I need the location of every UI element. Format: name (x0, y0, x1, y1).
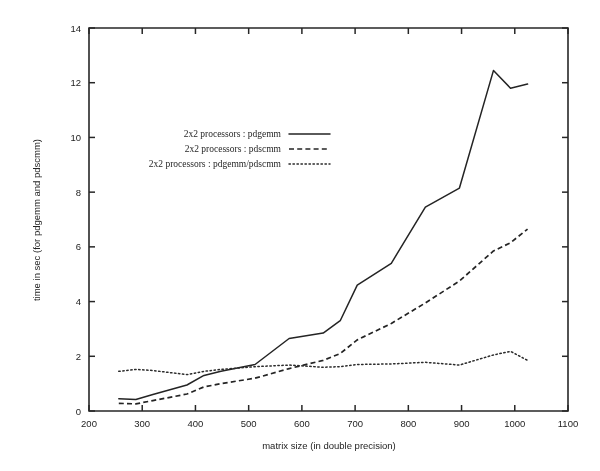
x-tick-label: 1100 (558, 418, 578, 429)
series-pdgemm-line (119, 70, 528, 399)
x-tick-label: 600 (294, 418, 310, 429)
series-pdscmm-line (119, 229, 528, 404)
line-chart: 20030040050060070080090010001100 0246810… (0, 0, 600, 471)
x-axis-ticks (89, 28, 568, 411)
chart-figure: 20030040050060070080090010001100 0246810… (0, 0, 600, 471)
plot-frame (89, 28, 568, 411)
series-group (119, 70, 528, 403)
legend-label-1: 2x2 processors : pdscmm (185, 144, 282, 154)
x-axis-tick-labels: 20030040050060070080090010001100 (81, 418, 578, 429)
y-axis-ticks (89, 28, 568, 411)
y-tick-label: 0 (76, 406, 81, 417)
y-axis-title: time in sec (for pdgemm and pdscmm) (31, 139, 42, 301)
legend-label-0: 2x2 processors : pdgemm (184, 129, 282, 139)
y-tick-label: 10 (70, 132, 81, 143)
y-tick-label: 4 (76, 296, 81, 307)
x-tick-label: 300 (134, 418, 150, 429)
x-tick-label: 800 (400, 418, 416, 429)
y-tick-label: 14 (70, 23, 81, 34)
y-tick-label: 6 (76, 241, 81, 252)
x-tick-label: 900 (454, 418, 470, 429)
y-axis-tick-labels: 02468101214 (70, 23, 81, 417)
series-ratio-line (119, 351, 528, 374)
y-tick-label: 2 (76, 351, 81, 362)
legend: 2x2 processors : pdgemm 2x2 processors :… (149, 129, 330, 169)
x-tick-label: 1000 (504, 418, 525, 429)
x-tick-label: 500 (241, 418, 257, 429)
y-tick-label: 12 (70, 77, 81, 88)
x-tick-label: 200 (81, 418, 97, 429)
x-tick-label: 400 (188, 418, 204, 429)
x-axis-title: matrix size (in double precision) (262, 440, 396, 451)
y-tick-label: 8 (76, 187, 81, 198)
legend-label-2: 2x2 processors : pdgemm/pdscmm (149, 159, 282, 169)
x-tick-label: 700 (347, 418, 363, 429)
